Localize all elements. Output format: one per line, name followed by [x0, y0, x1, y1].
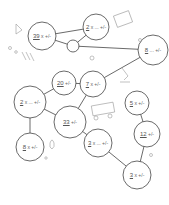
maze-node — [67, 40, 79, 52]
node-expr: +/- — [64, 80, 71, 86]
node-expr: x +/- — [26, 144, 37, 150]
node-expr: +/- — [147, 131, 154, 137]
node-value: 39 — [33, 33, 40, 39]
microscope-icon — [120, 68, 130, 82]
calculator-icon — [113, 11, 132, 28]
node-expr: x +/- — [89, 81, 100, 87]
node-label: 12 +/- — [140, 131, 154, 137]
node-expr: x +/- — [133, 100, 144, 106]
bubble — [9, 47, 12, 50]
node-label: 39 x +/- — [33, 33, 51, 39]
node-label: 8 ... +/- — [145, 47, 161, 53]
node-value: 33 — [63, 119, 70, 125]
node-label: 3 x +/- — [130, 172, 145, 178]
node-label: 20 +/- — [57, 80, 71, 86]
hand-icon — [50, 140, 55, 149]
triangle-icon — [16, 24, 22, 34]
node-label: 7 x +/- — [86, 81, 101, 87]
node-expr: x ... +/- — [89, 24, 106, 30]
node-value: 20 — [57, 80, 64, 86]
node-expr: x +/- — [133, 172, 144, 178]
test-tube-icon — [22, 52, 34, 61]
node-expr: +/- — [70, 119, 77, 125]
node-expr: x ... +/- — [91, 140, 108, 146]
node-label: 5 x +/- — [130, 100, 145, 106]
node-expr: x ... +/- — [23, 99, 40, 105]
node-expr: x +/- — [40, 33, 51, 39]
bus-icon — [91, 102, 114, 120]
node-value: 12 — [140, 131, 147, 137]
node-label: 8 x +/- — [23, 144, 38, 150]
node-label: 2 x ... +/- — [86, 24, 106, 30]
node-label: 2 x ... +/- — [20, 99, 40, 105]
node-label: 33 +/- — [63, 119, 77, 125]
node-expr: ... +/- — [148, 47, 161, 53]
node-label: 3 x ... +/- — [88, 140, 108, 146]
